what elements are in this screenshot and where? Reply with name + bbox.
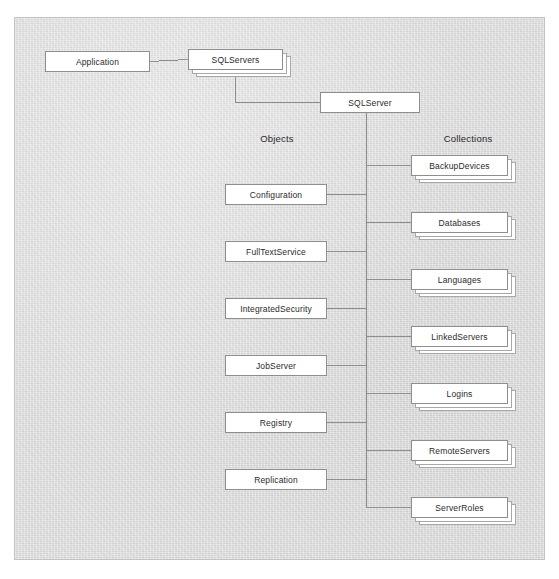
node-label: Application — [76, 57, 119, 67]
node-replication[interactable]: Replication — [225, 469, 327, 490]
node-sqlserver[interactable]: SQLServer — [320, 92, 420, 113]
stack-sheet-front[interactable]: SQLServers — [188, 49, 283, 70]
node-integratedsecurity[interactable]: IntegratedSecurity — [225, 298, 327, 319]
column-heading-objects: Objects — [260, 133, 294, 144]
node-label: RemoteServers — [429, 446, 490, 456]
node-label: Logins — [447, 389, 473, 399]
node-label: BackupDevices — [429, 161, 490, 171]
node-label: LinkedServers — [431, 332, 487, 342]
stack-sheet-front[interactable]: Databases — [411, 212, 508, 233]
stack-sheet-front[interactable]: ServerRoles — [411, 497, 508, 518]
collection-node-serverroles[interactable]: ServerRoles — [411, 497, 517, 526]
stack-sheet-front[interactable]: LinkedServers — [411, 326, 508, 347]
collection-node-logins[interactable]: Logins — [411, 383, 517, 412]
stack-sheet-front[interactable]: Logins — [411, 383, 508, 404]
node-label: Databases — [439, 218, 481, 228]
collection-node-databases[interactable]: Databases — [411, 212, 517, 241]
collection-node-sqlservers[interactable]: SQLServers — [188, 49, 292, 78]
node-label: SQLServers — [212, 55, 260, 65]
node-label: Configuration — [250, 190, 303, 200]
node-label: ServerRoles — [435, 503, 483, 513]
node-label: SQLServer — [348, 98, 391, 108]
node-label: Languages — [438, 275, 481, 285]
collection-node-languages[interactable]: Languages — [411, 269, 517, 298]
node-label: IntegratedSecurity — [240, 304, 312, 314]
node-label: Replication — [254, 475, 298, 485]
node-configuration[interactable]: Configuration — [225, 184, 327, 205]
node-label: JobServer — [256, 361, 296, 371]
stack-sheet-front[interactable]: Languages — [411, 269, 508, 290]
collection-node-linkedservers[interactable]: LinkedServers — [411, 326, 517, 355]
stack-sheet-front[interactable]: RemoteServers — [411, 440, 508, 461]
node-fulltextservice[interactable]: FullTextService — [225, 241, 327, 262]
collection-node-remoteservers[interactable]: RemoteServers — [411, 440, 517, 469]
stack-sheet-front[interactable]: BackupDevices — [411, 155, 508, 176]
node-label: Registry — [260, 418, 292, 428]
node-application[interactable]: Application — [45, 51, 150, 72]
diagram-canvas: Objects Collections ApplicationSQLServer… — [0, 0, 559, 579]
collection-node-backupdevices[interactable]: BackupDevices — [411, 155, 517, 184]
node-label: FullTextService — [246, 247, 306, 257]
column-heading-collections: Collections — [444, 133, 493, 144]
node-jobserver[interactable]: JobServer — [225, 355, 327, 376]
node-registry[interactable]: Registry — [225, 412, 327, 433]
